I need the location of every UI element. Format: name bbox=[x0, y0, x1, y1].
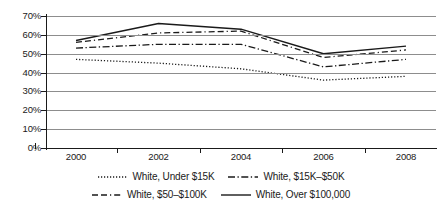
y-axis-tick bbox=[41, 16, 46, 17]
gridline bbox=[46, 16, 436, 17]
legend-item-white-over-100000[interactable]: White, Over $100,000 bbox=[221, 190, 350, 200]
y-axis-tick-label: 30% bbox=[23, 87, 41, 97]
legend-label: White, $15K–$50K bbox=[263, 172, 344, 182]
plot-area: 0%10%20%30%40%50%60%70% 2000200220042006… bbox=[0, 0, 442, 160]
y-axis-labels: 0%10%20%30%40%50%60%70% bbox=[0, 0, 44, 160]
legend-swatch-solid bbox=[221, 190, 251, 200]
x-axis-tick-label: 2008 bbox=[396, 152, 416, 162]
legend-item-white-15k-50k[interactable]: White, $15K–$50K bbox=[228, 172, 344, 182]
y-axis-tick bbox=[41, 54, 46, 55]
gridline bbox=[46, 35, 436, 36]
y-axis-tick bbox=[41, 129, 46, 130]
legend-swatch-dotted bbox=[98, 172, 128, 182]
y-axis-tick-label: 40% bbox=[23, 68, 41, 78]
y-axis-tick-label: 70% bbox=[23, 11, 41, 21]
x-axis-labels: 20002002200420062008 bbox=[0, 152, 442, 168]
y-axis-tick bbox=[41, 148, 46, 149]
x-axis-tick-label: 2004 bbox=[231, 152, 251, 162]
gridline bbox=[46, 54, 436, 55]
legend-swatch-dashdot bbox=[228, 172, 258, 182]
y-axis-line bbox=[46, 14, 47, 150]
x-axis-tick-label: 2006 bbox=[313, 152, 333, 162]
legend-label: White, Under $15K bbox=[133, 172, 215, 182]
legend-row-1: White, Under $15K White, $15K–$50K bbox=[0, 168, 442, 186]
y-axis-tick-label: 60% bbox=[23, 30, 41, 40]
y-axis-tick-label: 20% bbox=[23, 106, 41, 116]
chart-legend: White, Under $15K White, $15K–$50K White… bbox=[0, 168, 442, 212]
gridline bbox=[46, 110, 436, 111]
y-axis-tick bbox=[41, 110, 46, 111]
legend-row-2: White, $50–$100K White, Over $100,000 bbox=[0, 186, 442, 204]
plot-canvas bbox=[46, 16, 436, 148]
series-line bbox=[76, 44, 406, 67]
x-axis-tick bbox=[35, 143, 36, 149]
x-axis-tick-label: 2000 bbox=[66, 152, 86, 162]
y-axis-tick bbox=[41, 35, 46, 36]
y-axis-tick bbox=[41, 91, 46, 92]
y-axis-tick-label: 50% bbox=[23, 49, 41, 59]
x-axis-line bbox=[46, 148, 437, 149]
y-axis-tick-label: 10% bbox=[23, 124, 41, 134]
legend-item-white-under-15k[interactable]: White, Under $15K bbox=[98, 172, 215, 182]
series-line bbox=[76, 59, 406, 80]
legend-label: White, $50–$100K bbox=[127, 190, 207, 200]
gridline bbox=[46, 73, 436, 74]
series-line bbox=[76, 24, 406, 54]
gridline bbox=[46, 129, 436, 130]
legend-item-white-50k-100k[interactable]: White, $50–$100K bbox=[92, 190, 207, 200]
x-axis-tick-label: 2002 bbox=[148, 152, 168, 162]
y-axis-tick bbox=[41, 73, 46, 74]
line-chart: 0%10%20%30%40%50%60%70% 2000200220042006… bbox=[0, 0, 442, 217]
gridline bbox=[46, 91, 436, 92]
legend-label: White, Over $100,000 bbox=[256, 190, 350, 200]
legend-swatch-dashed bbox=[92, 190, 122, 200]
